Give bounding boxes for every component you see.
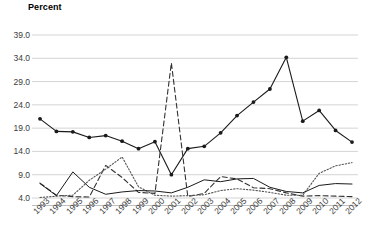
series-line-series-marker-solid xyxy=(40,57,352,174)
chart-container: Percent 39.034.029.024.019.014.09.04.0 1… xyxy=(0,0,366,233)
y-axis-tick-label: 14.0 xyxy=(2,146,30,156)
y-axis-tick-label: 24.0 xyxy=(2,100,30,110)
data-point-marker xyxy=(55,130,59,134)
data-point-marker xyxy=(137,147,141,151)
data-point-marker xyxy=(219,131,223,135)
data-point-marker xyxy=(301,119,305,123)
y-axis-tick-label: 34.0 xyxy=(2,53,30,63)
data-point-marker xyxy=(169,173,173,177)
y-axis-tick-label: 29.0 xyxy=(2,77,30,87)
chart-svg xyxy=(32,0,362,233)
y-axis-tick-label: 4.0 xyxy=(2,193,30,203)
data-point-marker xyxy=(202,144,206,148)
y-axis-tick-labels: 39.034.029.024.019.014.09.04.0 xyxy=(0,0,30,233)
data-point-marker xyxy=(186,147,190,151)
plot-area xyxy=(32,0,362,233)
data-point-marker xyxy=(71,130,75,134)
data-point-marker xyxy=(252,100,256,104)
data-point-marker xyxy=(120,139,124,143)
series-layer xyxy=(38,55,354,197)
y-axis-tick-label: 19.0 xyxy=(2,123,30,133)
data-point-marker xyxy=(350,140,354,144)
y-axis-tick-label: 9.0 xyxy=(2,170,30,180)
series-line-series-thin-solid xyxy=(40,172,352,196)
y-axis-tick-label: 39.0 xyxy=(2,30,30,40)
data-point-marker xyxy=(268,87,272,91)
data-point-marker xyxy=(153,140,157,144)
data-point-marker xyxy=(235,114,239,118)
data-point-marker xyxy=(38,117,42,121)
data-point-marker xyxy=(104,134,108,138)
data-point-marker xyxy=(334,129,338,133)
data-point-marker xyxy=(87,136,91,140)
data-point-marker xyxy=(317,109,321,113)
series-line-series-dashed xyxy=(40,63,352,197)
data-point-marker xyxy=(284,55,288,59)
